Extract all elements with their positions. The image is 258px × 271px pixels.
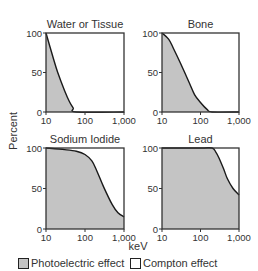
y-tick-label: 50 <box>31 183 42 194</box>
x-tick-label: 10 <box>41 232 52 243</box>
photoelectric-swatch <box>18 258 29 269</box>
panel-title: Water or Tissue <box>47 18 124 30</box>
panel-title: Bone <box>188 18 214 30</box>
photoelectric-area <box>162 33 239 112</box>
x-tick-label: 10 <box>157 232 168 243</box>
x-tick-label: 100 <box>193 232 209 243</box>
x-tick-label: 1,000 <box>227 115 251 126</box>
x-tick-label: 1,000 <box>112 115 136 126</box>
y-axis-label: Percent <box>7 112 19 150</box>
x-tick-label: 10 <box>41 115 52 126</box>
x-tick-label: 10 <box>157 115 168 126</box>
chart-canvas: Water or Tissue050100101001,000Bone05010… <box>0 0 258 271</box>
y-tick-label: 50 <box>147 183 158 194</box>
y-tick-label: 100 <box>26 143 42 154</box>
legend-photoelectric-label: Photoelectric effect <box>31 257 124 269</box>
y-tick-label: 100 <box>26 28 42 39</box>
y-tick-label: 100 <box>142 28 158 39</box>
legend-compton: Compton effect <box>130 257 217 269</box>
y-tick-label: 50 <box>147 67 158 78</box>
x-tick-label: 100 <box>77 232 93 243</box>
panel-title: Lead <box>188 133 212 145</box>
x-tick-label: 100 <box>77 115 93 126</box>
panel-title: Sodium Iodide <box>50 133 120 145</box>
x-axis-label: keV <box>129 240 149 252</box>
x-tick-label: 100 <box>193 115 209 126</box>
x-tick-label: 1,000 <box>227 232 251 243</box>
legend-compton-label: Compton effect <box>143 257 217 269</box>
compton-swatch <box>130 258 141 269</box>
legend-photoelectric: Photoelectric effect <box>18 257 124 269</box>
photoelectric-area <box>46 148 124 229</box>
y-tick-label: 50 <box>31 67 42 78</box>
photoelectric-area <box>162 148 239 229</box>
y-tick-label: 100 <box>142 143 158 154</box>
